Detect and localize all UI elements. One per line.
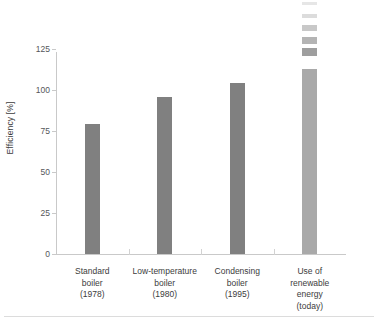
category-label-line: (1995) — [201, 289, 274, 301]
category-label-line: renewable — [274, 278, 347, 290]
y-tick-label: 25 — [41, 208, 50, 218]
x-axis-separator — [129, 249, 130, 255]
figure-bottom-rule — [4, 316, 374, 317]
category-label-line: (today) — [274, 301, 347, 313]
fading-extension-segment — [302, 37, 317, 44]
category-label: Use ofrenewableenergy(today) — [274, 266, 347, 312]
y-tick-mark — [52, 49, 56, 50]
fading-extension-segment — [302, 14, 317, 18]
category-label-line: boiler — [56, 278, 129, 290]
category-label-line: boiler — [129, 278, 202, 290]
x-axis-separator — [201, 249, 202, 255]
plot-area: 0255075100125 Standardboiler(1978)Low-te… — [56, 8, 346, 255]
y-tick-label: 100 — [36, 85, 50, 95]
bar — [85, 124, 100, 254]
category-label-line: Standard — [56, 266, 129, 278]
efficiency-bar-chart: Efficiency [%] 0255075100125 Standardboi… — [0, 0, 378, 322]
bar — [230, 83, 245, 254]
y-tick-mark — [52, 213, 56, 214]
y-tick-label: 75 — [41, 126, 50, 136]
y-axis-line — [56, 52, 57, 255]
fading-extension-segment — [302, 2, 317, 5]
y-tick-mark — [52, 131, 56, 132]
category-label-line: Low-temperature — [129, 266, 202, 278]
y-tick-mark — [52, 172, 56, 173]
fading-extension-segment — [302, 25, 317, 31]
x-axis-separator — [274, 249, 275, 255]
y-tick-mark — [52, 90, 56, 91]
y-tick-label: 50 — [41, 167, 50, 177]
fading-extension-segment — [302, 48, 317, 56]
y-axis-title: Efficiency [%] — [0, 0, 20, 256]
bar — [157, 97, 172, 254]
y-tick-label: 0 — [45, 249, 50, 259]
category-label-line: Use of — [274, 266, 347, 278]
category-label-line: (1978) — [56, 289, 129, 301]
category-label: Condensingboiler(1995) — [201, 266, 274, 301]
category-label-line: Condensing — [201, 266, 274, 278]
y-axis-title-text: Efficiency [%] — [5, 102, 15, 155]
category-label-line: energy — [274, 289, 347, 301]
y-tick-mark — [52, 254, 56, 255]
category-label: Low-temperatureboiler(1980) — [129, 266, 202, 301]
category-label-line: boiler — [201, 278, 274, 290]
category-label-line: (1980) — [129, 289, 202, 301]
y-tick-label: 125 — [36, 44, 50, 54]
category-label: Standardboiler(1978) — [56, 266, 129, 301]
bar — [302, 69, 317, 254]
